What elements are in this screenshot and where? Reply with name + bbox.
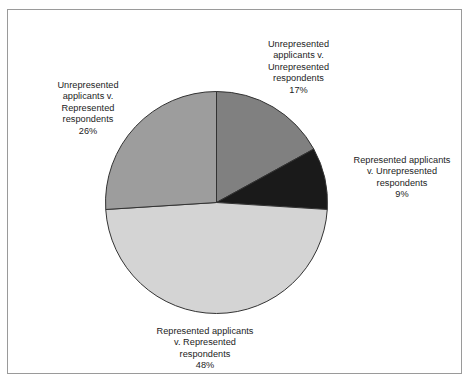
pie-label-unrepresented-v-represented: Unrepresented applicants v. Represented … bbox=[26, 68, 150, 149]
chart-frame-border: Unrepresented applicants v. Unrepresente… bbox=[7, 9, 462, 374]
pie-label-represented-v-unrepresented: Represented applicants v. Unrepresented … bbox=[326, 143, 474, 213]
pie-label-right-percent: 9% bbox=[326, 189, 474, 201]
pie-label-left-text: Unrepresented applicants v. Represented … bbox=[57, 80, 118, 125]
pie-label-represented-v-represented: Represented applicants v. Represented re… bbox=[126, 314, 284, 378]
pie-label-right-text: Represented applicants v. Unrepresented … bbox=[354, 155, 451, 188]
pie-slice-represented-v-represented[interactable] bbox=[106, 203, 328, 314]
pie-label-unrepresented-v-unrepresented: Unrepresented applicants v. Unrepresente… bbox=[236, 27, 361, 108]
pie-label-bottom-text: Represented applicants v. Represented re… bbox=[157, 326, 254, 359]
pie-label-top-text: Unrepresented applicants v. Unrepresente… bbox=[268, 39, 329, 84]
pie-label-top-percent: 17% bbox=[236, 85, 361, 97]
pie-label-bottom-percent: 48% bbox=[126, 360, 284, 372]
pie-label-left-percent: 26% bbox=[26, 126, 150, 138]
